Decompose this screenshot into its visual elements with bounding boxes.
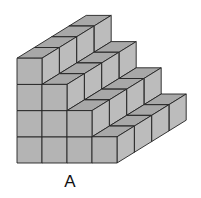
figure-label: A <box>62 172 78 192</box>
cube-staircase-diagram <box>0 0 201 198</box>
